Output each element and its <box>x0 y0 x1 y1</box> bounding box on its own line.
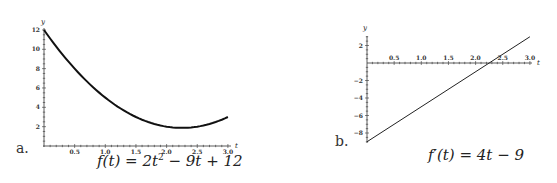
y-tick-label: −4 <box>354 94 363 101</box>
x-tick-label: 2.5 <box>498 54 508 61</box>
x-tick-label: 2.0 <box>470 54 480 61</box>
y-tick-label: 2 <box>36 123 40 130</box>
formula-a-rhs: − 9t + 12 <box>164 152 243 170</box>
x-tick-label: 1.0 <box>416 54 426 61</box>
y-tick-label: 2 <box>359 42 363 49</box>
x-tick-label: 3.0 <box>525 54 535 61</box>
chart-b-y-axis-label: y <box>362 24 368 32</box>
chart-a-curve <box>44 30 228 128</box>
y-tick-label: −6 <box>354 112 363 119</box>
formula-a-lhs: f(t) = 2t <box>97 152 158 170</box>
y-tick-label: 6 <box>36 84 40 91</box>
chart-a-y-axis-label: y <box>40 18 46 26</box>
y-tick-label: −2 <box>354 77 363 84</box>
chart-b-line <box>367 37 530 142</box>
formula-b: f′(t) = 4t − 9 <box>428 146 524 164</box>
formula-b-text: f′(t) = 4t − 9 <box>428 146 524 164</box>
y-tick-label: 10 <box>32 45 40 52</box>
y-tick-label: −8 <box>354 129 363 136</box>
y-tick-label: 4 <box>36 103 40 110</box>
y-tick-label: 8 <box>36 65 40 72</box>
x-tick-label: 1.5 <box>443 54 453 61</box>
chart-a: 0.51.01.52.02.53.0 24681012 y t <box>32 18 238 155</box>
chart-b-x-axis-label: t <box>537 59 540 67</box>
panel-label-a: a. <box>16 140 29 156</box>
x-tick-label: 0.5 <box>389 54 399 61</box>
chart-a-x-axis-label: t <box>235 142 238 150</box>
x-tick-label: 0.5 <box>69 148 79 155</box>
chart-b: 0.51.01.52.02.53.0 2−2−4−6−8 y t <box>354 24 540 143</box>
panel-label-b: b. <box>335 133 348 149</box>
y-tick-label: 12 <box>32 26 40 33</box>
formula-a: f(t) = 2t2 − 9t + 12 <box>97 152 243 170</box>
